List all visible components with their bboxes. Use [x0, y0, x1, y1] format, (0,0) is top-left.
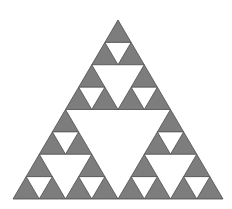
fractal-figure: Sierpinski Triangle	[0, 0, 232, 209]
sierpinski-triangle-svg	[0, 0, 232, 209]
